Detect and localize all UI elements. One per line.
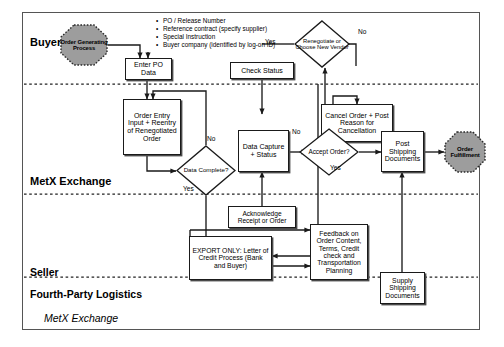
node-post-shipping-documents: Post Shipping Documents <box>381 131 424 172</box>
edge-label-data-complete-no: No <box>207 135 215 142</box>
po-data-bullet-list: PO / Release Number Reference contract (… <box>156 17 275 49</box>
edge-label-renegotiate-yes: Yes <box>265 38 275 45</box>
node-export-only-letter-of-credit: EXPORT ONLY: Letter of Credit Process (B… <box>189 236 272 280</box>
node-supply-shipping-documents: Supply Shipping Documents <box>380 272 425 304</box>
node-label: Post Shipping Documents <box>382 140 423 163</box>
bullet-item: PO / Release Number <box>156 17 275 25</box>
node-label: Acknowledge Receipt or Order <box>229 210 295 224</box>
node-data-capture-status: Data Capture + Status <box>238 130 289 172</box>
edge-label-accept-order-yes: Yes <box>330 164 341 171</box>
node-order-generating-process: Order Generating Process <box>60 24 108 66</box>
node-label: Order Fulfillment <box>444 146 486 159</box>
node-label: EXPORT ONLY: Letter of Credit Process (B… <box>190 247 271 269</box>
bullet-item: Special Instruction <box>156 33 275 41</box>
node-label: Data Capture + Status <box>239 143 288 158</box>
node-renegotiate-or-choose-new-vendor: Renegotiate or Choose New Vendor <box>294 20 350 68</box>
node-order-fulfillment: Order Fulfillment <box>444 131 486 173</box>
edge-label-accept-order-no: No <box>292 128 300 135</box>
node-label: Accept Order? <box>308 149 349 156</box>
lane-label-buyer: Buyer <box>30 36 61 48</box>
node-label: Supply Shipping Documents <box>381 277 424 299</box>
node-acknowledge-receipt: Acknowledge Receipt or Order <box>228 206 296 228</box>
edge-label-renegotiate-no: No <box>358 28 366 35</box>
node-feedback: Feedback on Order Content, Terms, Credit… <box>310 224 368 280</box>
edge-label-data-complete-yes: Yes <box>183 185 194 192</box>
lane-label-fourth-party-logistics: Fourth-Party Logistics <box>30 288 142 300</box>
lane-label-seller: Seller <box>30 266 59 278</box>
node-label: Renegotiate or Choose New Vendor <box>294 38 350 50</box>
node-label: Data Complete? <box>184 167 229 174</box>
node-label: Enter PO Data <box>126 61 171 76</box>
node-label: Order Generating Process <box>60 39 108 51</box>
diagram-canvas: Buyer MetX Exchange Seller Fourth-Party … <box>0 0 504 347</box>
node-check-status: Check Status <box>230 62 294 79</box>
node-enter-po-data: Enter PO Data <box>125 58 172 80</box>
node-label: Check Status <box>239 67 285 75</box>
lane-label-metx-exchange: MetX Exchange <box>30 175 111 187</box>
diagram-caption: MetX Exchange <box>44 312 118 324</box>
bullet-item: Reference contract (specify supplier) <box>156 25 275 33</box>
node-label: Feedback on Order Content, Terms, Credit… <box>311 230 367 274</box>
node-label: Order Entry Input + Reentry of Renegotia… <box>124 112 180 142</box>
node-accept-order: Accept Order? <box>299 128 359 176</box>
bullet-item: Buyer company (identified by log-on ID) <box>156 41 275 49</box>
node-order-entry-input: Order Entry Input + Reentry of Renegotia… <box>123 99 181 155</box>
